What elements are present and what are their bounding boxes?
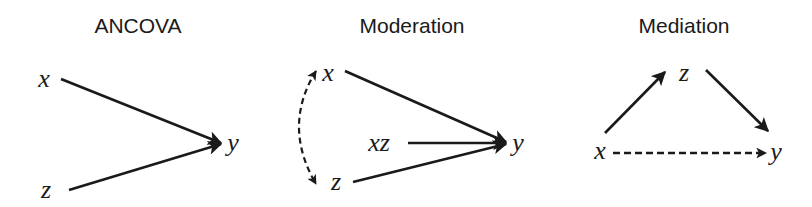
mediation-panel: Mediation z x y: [0, 0, 812, 207]
node-y: y: [770, 139, 782, 165]
node-z: z: [679, 60, 689, 86]
panel-title: Mediation: [638, 14, 729, 38]
node-x: x: [594, 138, 606, 164]
